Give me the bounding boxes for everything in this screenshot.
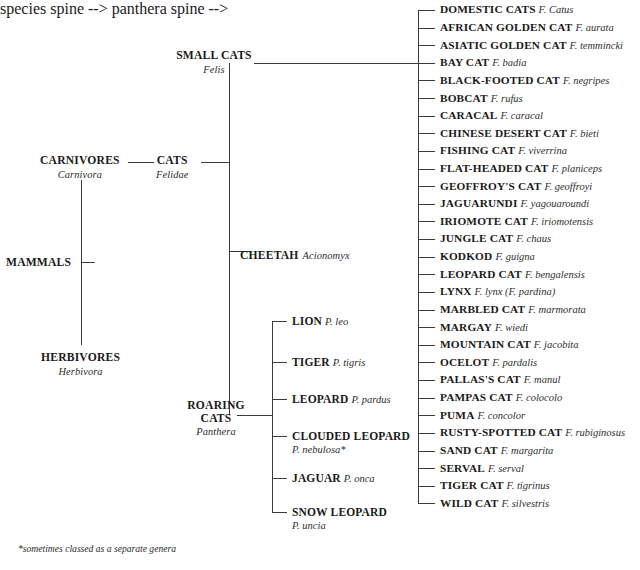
species-common-name: LEOPARD CAT bbox=[440, 268, 522, 280]
species-common-name: PUMA bbox=[440, 409, 474, 421]
species-common-name: KODKOD bbox=[440, 250, 492, 262]
species-latin-name: F. iriomotensis bbox=[531, 216, 593, 227]
species-row: OCELOTF. pardalis bbox=[440, 357, 537, 369]
species-latin-name: F. yagouaroundi bbox=[520, 198, 589, 209]
herbivores-latin: Herbivora bbox=[41, 366, 120, 377]
connector-species-tick bbox=[418, 345, 435, 346]
species-row: FLAT-HEADED CATF. planiceps bbox=[440, 163, 602, 175]
species-latin-name: P. leo bbox=[325, 316, 348, 327]
species-row: ASIATIC GOLDEN CATF. temmincki bbox=[440, 40, 623, 52]
species-latin-name: P. uncia bbox=[292, 520, 387, 532]
species-latin-name: F. bengalensis bbox=[525, 269, 585, 280]
connector-panthera-tick bbox=[272, 362, 287, 363]
panthera-species-row: SNOW LEOPARDP. uncia bbox=[292, 506, 387, 532]
species-common-name: RUSTY-SPOTTED CAT bbox=[440, 426, 562, 438]
node-carnivores: CARNIVORES Carnivora bbox=[40, 150, 120, 180]
species-common-name: FISHING CAT bbox=[440, 144, 515, 156]
small-cats-label: SMALL CATS bbox=[176, 49, 252, 62]
species-latin-name: F. rufus bbox=[491, 93, 523, 104]
species-common-name: WILD CAT bbox=[440, 497, 498, 509]
species-common-name: CARACAL bbox=[440, 109, 498, 121]
species-latin-name: F. marmorata bbox=[528, 304, 586, 315]
node-cats: CATS Felidae bbox=[156, 150, 188, 180]
connector-mammals-stub bbox=[81, 262, 95, 263]
connector-species-tick bbox=[418, 204, 435, 205]
panthera-species-row: JAGUARP. onca bbox=[292, 472, 375, 485]
connector-species-tick bbox=[418, 80, 435, 81]
species-row: LYNXF. lynx (F. pardina) bbox=[440, 286, 555, 298]
connector-species-tick bbox=[418, 257, 435, 258]
connector-species-tick bbox=[418, 486, 435, 487]
species-latin-name: P. nebulosa* bbox=[292, 444, 410, 456]
species-common-name: JAGUAR bbox=[292, 472, 341, 484]
connector-species-tick bbox=[418, 398, 435, 399]
species-latin-name: F. margarita bbox=[501, 445, 554, 456]
node-small-cats: SMALL CATS Felis bbox=[176, 45, 252, 75]
species-common-name: PALLAS'S CAT bbox=[440, 373, 521, 385]
species-common-name: ASIATIC GOLDEN CAT bbox=[440, 39, 567, 51]
species-common-name: BLACK-FOOTED CAT bbox=[440, 74, 560, 86]
species-common-name: SAND CAT bbox=[440, 444, 498, 456]
species-row: AFRICAN GOLDEN CATF. aurata bbox=[440, 22, 614, 34]
species-row: MOUNTAIN CATF. jacobita bbox=[440, 339, 579, 351]
connector-species-tick bbox=[418, 169, 435, 170]
connector-species-tick bbox=[418, 274, 435, 275]
species-latin-name: F. Catus bbox=[539, 4, 574, 15]
species-common-name: JUNGLE CAT bbox=[440, 232, 513, 244]
species-common-name: DOMESTIC CATS bbox=[440, 3, 536, 15]
mammals-label: MAMMALS bbox=[6, 256, 71, 269]
species-row: KODKODF. guigna bbox=[440, 251, 535, 263]
connector-roaringcats-to-species bbox=[237, 415, 273, 416]
species-row: PAMPAS CATF. colocolo bbox=[440, 392, 562, 404]
small-cats-latin: Felis bbox=[176, 64, 252, 75]
connector-species-tick bbox=[418, 98, 435, 99]
connector-species-tick bbox=[418, 503, 435, 504]
node-cheetah: CHEETAHAcionomyx bbox=[240, 245, 350, 263]
connector-panthera-tick bbox=[272, 512, 287, 513]
species-common-name: BOBCAT bbox=[440, 92, 488, 104]
connector-panthera-tick bbox=[272, 321, 287, 322]
species-common-name: BAY CAT bbox=[440, 56, 489, 68]
connector-carnivores-to-cats bbox=[128, 162, 154, 163]
connector-panthera-tick bbox=[272, 478, 287, 479]
species-latin-name: F. chaus bbox=[516, 233, 551, 244]
species-common-name: TIGER bbox=[292, 356, 330, 368]
roaring-cats-latin: Panthera bbox=[180, 426, 252, 437]
species-common-name: LION bbox=[292, 315, 322, 327]
species-common-name: OCELOT bbox=[440, 356, 489, 368]
herbivores-label: HERBIVORES bbox=[41, 351, 120, 364]
connector-panthera-spine bbox=[272, 321, 273, 512]
species-common-name: MARGAY bbox=[440, 321, 492, 333]
species-common-name: SNOW LEOPARD bbox=[292, 506, 387, 518]
species-row: JUNGLE CATF. chaus bbox=[440, 233, 551, 245]
connector-species-tick bbox=[418, 63, 435, 64]
species-latin-name: F. badia bbox=[492, 57, 526, 68]
connector-species-tick bbox=[418, 380, 435, 381]
connector-species-tick bbox=[418, 451, 435, 452]
cheetah-label: CHEETAH bbox=[240, 249, 299, 262]
species-common-name: MOUNTAIN CAT bbox=[440, 338, 531, 350]
node-roaring-cats: ROARING CATS Panthera bbox=[180, 400, 252, 437]
species-row: RUSTY-SPOTTED CATF. rubiginosus bbox=[440, 427, 625, 439]
cheetah-latin: Acionomyx bbox=[303, 250, 350, 261]
species-latin-name: F. jacobita bbox=[534, 339, 579, 350]
species-row: DOMESTIC CATSF. Catus bbox=[440, 4, 573, 16]
species-row: SERVALF. serval bbox=[440, 463, 524, 475]
species-row: TIGER CATF. tigrinus bbox=[440, 480, 550, 492]
connector-species-tick bbox=[418, 292, 435, 293]
species-row: CHINESE DESERT CATF. bieti bbox=[440, 128, 599, 140]
carnivores-latin: Carnivora bbox=[40, 169, 120, 180]
species-latin-name: F. planiceps bbox=[551, 163, 602, 174]
species-common-name: JAGUARUNDI bbox=[440, 197, 517, 209]
species-common-name: LYNX bbox=[440, 285, 472, 297]
species-common-name: LEOPARD bbox=[292, 393, 348, 405]
connector-panthera-tick bbox=[272, 399, 287, 400]
species-latin-name: P. pardus bbox=[351, 394, 390, 405]
species-common-name: PAMPAS CAT bbox=[440, 391, 513, 403]
connector-smallcats-to-species bbox=[254, 63, 418, 64]
species-common-name: CHINESE DESERT CAT bbox=[440, 127, 567, 139]
node-herbivores: HERBIVORES Herbivora bbox=[41, 347, 120, 377]
connector-species-tick bbox=[418, 239, 435, 240]
connector-species-tick bbox=[418, 10, 435, 11]
species-latin-name: F. tigrinus bbox=[507, 480, 550, 491]
